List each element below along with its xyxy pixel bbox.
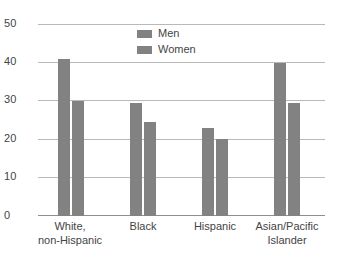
bar-men-white-non-hispanic [58, 59, 70, 216]
x-label-asian-pacific-islander: Asian/Pacific Islander [237, 220, 337, 247]
bar-group-asian-pacific-islander [274, 24, 300, 216]
bar-men-black [130, 103, 142, 216]
bar-women-black [144, 122, 156, 216]
bar-men-asian-pacific-islander [274, 63, 286, 216]
bar-group-white-non-hispanic [58, 24, 84, 216]
legend-item-men: Men [137, 27, 227, 40]
legend-swatch-women-icon [137, 46, 152, 54]
bar-women-white-non-hispanic [72, 101, 84, 216]
legend-label-men: Men [158, 28, 179, 39]
bar-chart: 50 40 30 20 10 0 [0, 0, 342, 263]
y-tick-label: 10 [4, 171, 34, 182]
y-tick-label: 30 [4, 94, 34, 105]
legend-swatch-men-icon [137, 30, 152, 38]
bar-men-hispanic [202, 128, 214, 216]
y-tick-label: 40 [4, 56, 34, 67]
bar-women-hispanic [216, 139, 228, 216]
legend: Men Women [137, 27, 227, 59]
bar-women-asian-pacific-islander [288, 103, 300, 216]
legend-item-women: Women [137, 43, 227, 56]
x-axis-labels: White, non-Hispanic Black Hispanic Asian… [38, 220, 325, 262]
legend-label-women: Women [158, 44, 196, 55]
y-axis-ticks: 50 40 30 20 10 0 [0, 24, 34, 216]
y-tick-label: 50 [4, 18, 34, 29]
y-tick-label: 20 [4, 133, 34, 144]
